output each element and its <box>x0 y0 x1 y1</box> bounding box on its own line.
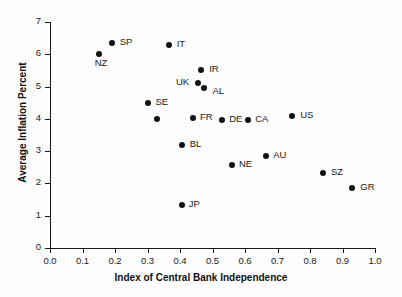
y-axis-line <box>50 22 51 249</box>
x-tick-label: 0.5 <box>198 255 228 266</box>
x-tick-label: 0.8 <box>295 255 325 266</box>
data-point <box>166 42 172 48</box>
y-tick-label: 0 <box>21 241 41 252</box>
data-point-label: US <box>300 109 313 120</box>
x-tick-label: 0.9 <box>328 255 358 266</box>
x-tick-mark <box>148 249 149 253</box>
data-point-label: NZ <box>95 57 108 68</box>
data-point <box>145 100 151 106</box>
x-tick-mark <box>245 249 246 253</box>
x-tick-label: 0.0 <box>35 255 65 266</box>
x-tick-mark <box>213 249 214 253</box>
y-tick-label: 7 <box>21 15 41 26</box>
x-tick-mark <box>278 249 279 253</box>
data-point-label: AL <box>212 85 224 96</box>
y-tick-mark <box>45 151 50 152</box>
y-tick-mark <box>45 183 50 184</box>
x-tick-mark <box>343 249 344 253</box>
x-tick-label: 0.3 <box>133 255 163 266</box>
data-point-label: SE <box>156 96 169 107</box>
data-point-label: AU <box>273 149 286 160</box>
data-point <box>179 142 185 148</box>
data-point-label: UK <box>176 76 189 87</box>
data-point <box>109 40 115 46</box>
data-point-label: JP <box>189 198 200 209</box>
data-point-label: DE <box>229 113 242 124</box>
x-tick-mark <box>310 249 311 253</box>
data-point-label: CA <box>255 113 268 124</box>
data-point-label: FR <box>200 111 213 122</box>
data-point <box>229 162 235 168</box>
y-axis-title: Average Inflation Percent <box>17 43 28 203</box>
data-point <box>198 67 204 73</box>
y-tick-mark <box>45 87 50 88</box>
data-point <box>263 153 269 159</box>
x-tick-label: 0.4 <box>165 255 195 266</box>
x-axis-title: Index of Central Bank Independence <box>0 272 402 283</box>
x-tick-label: 0.1 <box>68 255 98 266</box>
y-tick-mark <box>45 216 50 217</box>
data-point <box>289 113 295 119</box>
data-point-label: IR <box>209 63 219 74</box>
x-tick-mark <box>375 249 376 253</box>
y-tick-label: 1 <box>21 209 41 220</box>
data-point <box>201 85 207 91</box>
y-tick-mark <box>45 119 50 120</box>
x-tick-mark <box>115 249 116 253</box>
data-point-label: NE <box>239 158 252 169</box>
data-point-label: IT <box>177 38 185 49</box>
data-point-label: SZ <box>331 166 343 177</box>
data-point <box>154 116 160 122</box>
x-tick-label: 0.7 <box>263 255 293 266</box>
data-point-label: SP <box>120 36 133 47</box>
y-tick-mark <box>45 248 50 249</box>
x-tick-mark <box>180 249 181 253</box>
x-tick-label: 0.2 <box>100 255 130 266</box>
y-tick-mark <box>45 54 50 55</box>
scatter-chart-figure: 0.00.10.20.30.40.50.60.70.80.91.0 012345… <box>0 0 402 297</box>
y-tick-mark <box>45 22 50 23</box>
data-point-label: BL <box>190 138 202 149</box>
x-tick-label: 0.6 <box>230 255 260 266</box>
x-tick-mark <box>83 249 84 253</box>
x-tick-mark <box>50 249 51 253</box>
x-tick-label: 1.0 <box>360 255 390 266</box>
data-point-label: GR <box>360 181 374 192</box>
